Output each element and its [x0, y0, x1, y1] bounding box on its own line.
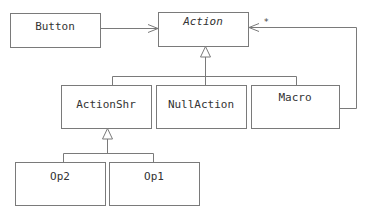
class-op2-label: Op2 [50, 170, 70, 183]
class-op1-label: Op1 [144, 170, 164, 183]
inheritance-triangle-icon [201, 47, 211, 58]
class-button: Button [11, 14, 101, 48]
class-action: Action [159, 13, 249, 47]
class-macro-label: Macro [278, 91, 311, 104]
class-button-label: Button [35, 20, 75, 33]
uml-diagram: Button Action * ActionShr NullAction Mac… [0, 0, 368, 218]
class-op1: Op1 [110, 163, 200, 206]
generalization-actionshr [64, 129, 154, 163]
multiplicity-label: * [264, 17, 269, 27]
class-nullaction: NullAction [157, 86, 247, 129]
inheritance-triangle-icon [103, 129, 113, 140]
generalization-action [113, 47, 297, 86]
class-action-label: Action [182, 15, 223, 28]
class-actionshr: ActionShr [62, 86, 152, 129]
class-actionshr-label: ActionShr [76, 98, 136, 111]
class-op2: Op2 [16, 163, 106, 206]
class-nullaction-label: NullAction [168, 98, 234, 111]
association-button-action [101, 25, 159, 33]
class-macro: Macro [252, 86, 340, 129]
